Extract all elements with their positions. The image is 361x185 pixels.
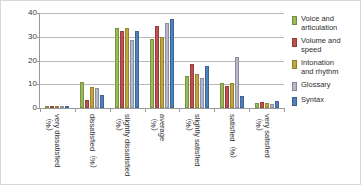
legend-item[interactable]: Syntax: [292, 96, 360, 106]
bar[interactable]: [185, 13, 189, 108]
y-axis-tick-label: 10: [28, 80, 37, 88]
bar-group: [75, 13, 110, 108]
bar-fill: [45, 106, 49, 108]
bar[interactable]: [115, 13, 119, 108]
bar-group: [110, 13, 145, 108]
bar[interactable]: [220, 13, 224, 108]
x-axis-tick-mark: [110, 108, 111, 112]
x-axis-tick-mark: [249, 108, 250, 112]
x-axis-category-label: average （%）: [149, 114, 166, 185]
bar-fill: [255, 103, 259, 108]
legend-label: Intonation and rhythm: [301, 59, 339, 76]
bar[interactable]: [265, 13, 269, 108]
bar[interactable]: [60, 13, 64, 108]
bar[interactable]: [170, 13, 174, 108]
bar-group: [40, 13, 75, 108]
legend-color-swatch: [292, 60, 297, 69]
bar[interactable]: [135, 13, 139, 108]
bar-fill: [65, 106, 69, 108]
x-axis-tick-mark: [75, 108, 76, 112]
bar-fill: [100, 95, 104, 108]
x-axis-tick-mark: [40, 108, 41, 112]
bar[interactable]: [205, 13, 209, 108]
legend-item[interactable]: Volume and speed: [292, 37, 360, 54]
bar-group: [179, 13, 214, 108]
bar[interactable]: [120, 13, 124, 108]
bar[interactable]: [50, 13, 54, 108]
bar[interactable]: [85, 13, 89, 108]
bar-fill: [170, 19, 174, 108]
x-axis-category-label: very satisfied （%）: [254, 114, 271, 185]
bar[interactable]: [65, 13, 69, 108]
bar[interactable]: [260, 13, 264, 108]
bar[interactable]: [130, 13, 134, 108]
bar-fill: [90, 87, 94, 108]
bar-fill: [60, 106, 64, 108]
x-axis-category-label: slightly dissatisfied （%）: [114, 114, 131, 185]
bar-group: [214, 13, 249, 108]
bar[interactable]: [190, 13, 194, 108]
legend-label: Volume and speed: [301, 37, 341, 54]
bar-fill: [205, 66, 209, 108]
bar[interactable]: [125, 13, 129, 108]
bar-fill: [130, 40, 134, 108]
bar[interactable]: [90, 13, 94, 108]
legend-item[interactable]: Voice and articulation: [292, 15, 360, 32]
bar-fill: [80, 82, 84, 108]
legend-color-swatch: [292, 38, 297, 47]
y-axis-tick-label: 0: [33, 104, 37, 112]
bar-fill: [55, 106, 59, 108]
bar[interactable]: [275, 13, 279, 108]
legend-color-swatch: [292, 97, 297, 106]
legend-item[interactable]: Intonation and rhythm: [292, 59, 360, 76]
bar[interactable]: [235, 13, 239, 108]
bar-fill: [120, 31, 124, 108]
bar[interactable]: [240, 13, 244, 108]
bar-fill: [135, 31, 139, 108]
x-axis-tick-mark: [179, 108, 180, 112]
bar-fill: [240, 96, 244, 108]
bar-fill: [115, 28, 119, 108]
bar[interactable]: [45, 13, 49, 108]
bar[interactable]: [160, 13, 164, 108]
legend-item[interactable]: Glossary: [292, 81, 360, 91]
bar-fill: [270, 104, 274, 109]
bar[interactable]: [270, 13, 274, 108]
bar-fill: [155, 26, 159, 108]
bar-fill: [185, 76, 189, 108]
bar[interactable]: [95, 13, 99, 108]
bar[interactable]: [100, 13, 104, 108]
plot-area: 010203040very dissatisfied （%）dissatisfi…: [39, 13, 284, 109]
bar-fill: [230, 83, 234, 108]
bar[interactable]: [230, 13, 234, 108]
x-axis-category-label: very dissatisfied （%）: [44, 114, 61, 185]
bar-group: [249, 13, 284, 108]
bar[interactable]: [155, 13, 159, 108]
bar[interactable]: [150, 13, 154, 108]
chart-legend: Voice and articulationVolume and speedIn…: [292, 15, 360, 111]
bar-fill: [150, 39, 154, 108]
bar-fill: [260, 102, 264, 108]
bar-fill: [225, 86, 229, 108]
legend-label: Syntax: [301, 96, 324, 105]
bar[interactable]: [255, 13, 259, 108]
bar-fill: [160, 37, 164, 108]
bar-fill: [165, 23, 169, 108]
x-axis-tick-mark: [284, 108, 285, 112]
bar[interactable]: [200, 13, 204, 108]
bar[interactable]: [165, 13, 169, 108]
bar-group: [145, 13, 180, 108]
bar-fill: [50, 106, 54, 108]
legend-color-swatch: [292, 82, 297, 91]
bar-fill: [195, 74, 199, 108]
bar-fill: [125, 28, 129, 108]
bar[interactable]: [195, 13, 199, 108]
bar[interactable]: [225, 13, 229, 108]
y-axis-tick-label: 30: [28, 33, 37, 41]
bar[interactable]: [55, 13, 59, 108]
legend-color-swatch: [292, 16, 297, 25]
bar-fill: [265, 103, 269, 108]
x-axis-category-label: satisfied（%）: [227, 114, 236, 185]
x-axis-tick-mark: [145, 108, 146, 112]
bar[interactable]: [80, 13, 84, 108]
